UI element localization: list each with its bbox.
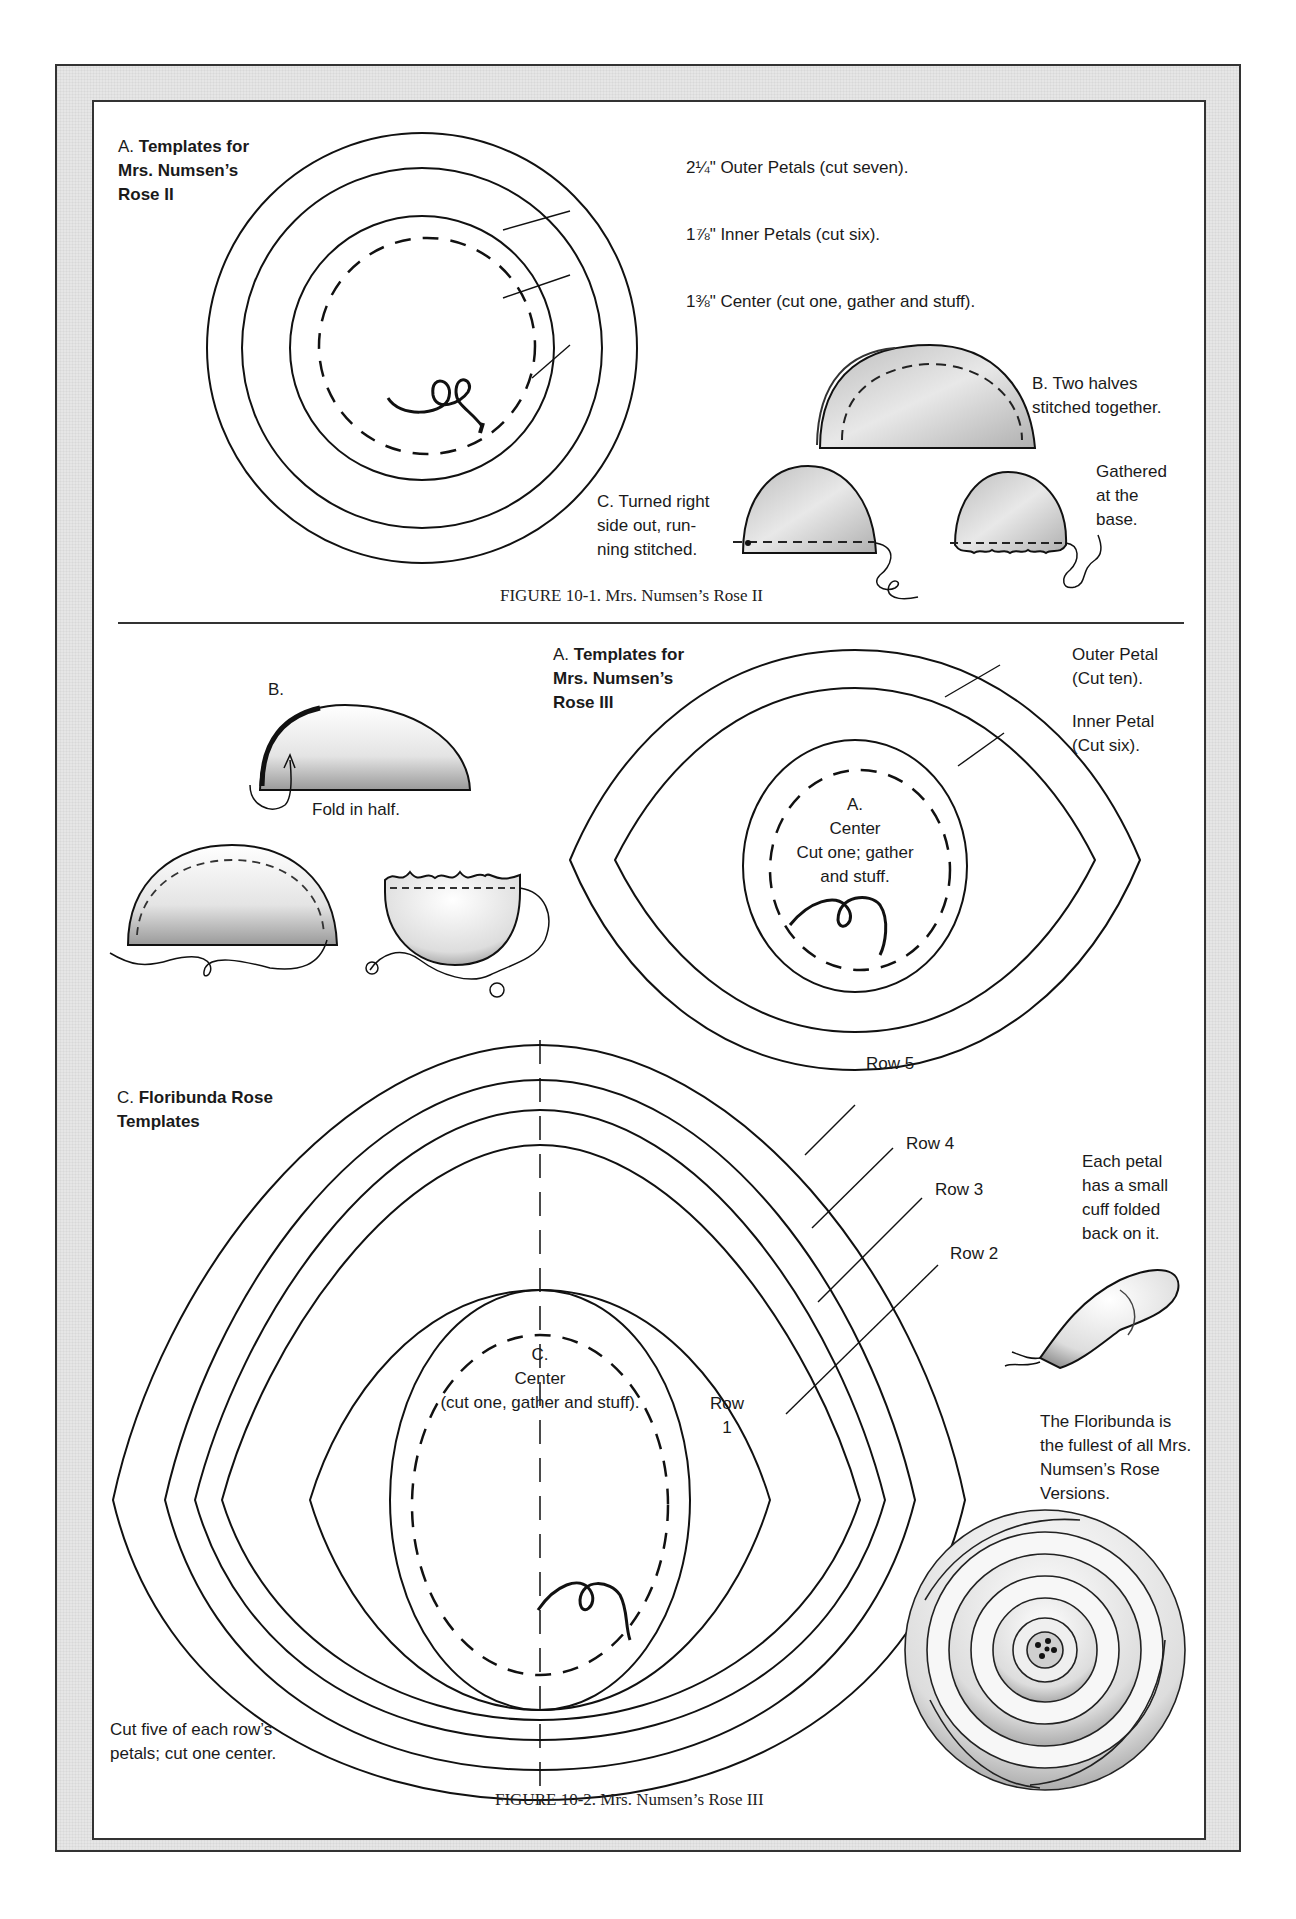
callout-center: 1⅜" Center (cut one, gather and stuff). (686, 290, 975, 314)
fold-in-half-drawing (250, 705, 470, 809)
floribunda-title: C. Floribunda Rose Templates (117, 1086, 273, 1134)
callout-inner-petals: 1⅞" Inner Petals (cut six). (686, 223, 880, 247)
rose2-title: A. Templates for Mrs. Numsen’s Rose II (118, 135, 249, 207)
row4-label: Row 4 (906, 1132, 954, 1156)
callout-outer-petals: 2¼" Outer Petals (cut seven). (686, 156, 908, 180)
row5-template (113, 1045, 965, 1800)
figure-caption-10-2: FIGURE 10-2. Mrs. Numsen’s Rose III (495, 1790, 764, 1810)
pattern-drawings (0, 0, 1296, 1919)
outer-petal-label: Outer Petal (Cut ten). (1072, 643, 1158, 691)
row2-template (222, 1145, 860, 1720)
thread-icon (538, 1583, 630, 1640)
turned-right-label: C. Turned right side out, run- ning stit… (597, 490, 709, 562)
center-a-label: A. Center Cut one; gather and stuff. (780, 793, 930, 889)
gathered-cup-drawing (366, 872, 549, 997)
petal-cuff-note: Each petal has a small cuff folded back … (1082, 1150, 1168, 1246)
inner-petal-label: Inner Petal (Cut six). (1072, 710, 1154, 758)
gathered-drawing (950, 472, 1101, 587)
thread-icon (388, 380, 482, 426)
rose2-templates (207, 133, 637, 563)
section-b-label: B. (268, 678, 284, 702)
cuffed-petal-drawing (1005, 1270, 1178, 1368)
title-line: Mrs. Numsen’s (118, 161, 238, 180)
section-letter: A. (118, 137, 134, 156)
row1-label: Row 1 (702, 1392, 752, 1440)
thread-icon (790, 897, 886, 955)
title-line: Rose II (118, 185, 174, 204)
floribunda-note: The Floribunda is the fullest of all Mrs… (1040, 1410, 1191, 1506)
rose3-title: A. Templates for Mrs. Numsen’s Rose III (553, 643, 684, 715)
cut-five-note: Cut five of each row’s petals; cut one c… (110, 1718, 276, 1766)
floribunda-rose-drawing (905, 1510, 1185, 1790)
fold-note: Fold in half. (312, 798, 400, 822)
running-stitched-drawing (733, 466, 918, 599)
outer-petal-circle (207, 133, 637, 563)
center-c-label: C. Center (cut one, gather and stuff). (420, 1343, 660, 1415)
row2-label: Row 2 (950, 1242, 998, 1266)
row3-label: Row 3 (935, 1178, 983, 1202)
row5-label: Row 5 (866, 1052, 914, 1076)
floribunda-templates (113, 1040, 965, 1805)
center-stitch-line (319, 238, 535, 454)
gathered-label: Gathered at the base. (1096, 460, 1167, 532)
center-circle (290, 216, 554, 480)
inner-petal-circle (242, 168, 602, 528)
stitched-halves-drawing (817, 345, 1035, 448)
title-line: Templates for (139, 137, 249, 156)
half-running-stitch-drawing (110, 845, 337, 976)
two-halves-label: B. Two halves stitched together. (1032, 372, 1161, 420)
figure-caption-10-1: FIGURE 10-1. Mrs. Numsen’s Rose II (500, 586, 763, 606)
